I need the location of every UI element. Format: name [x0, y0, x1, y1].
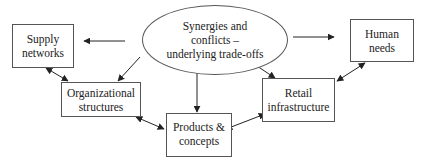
products-line-2: concepts: [179, 134, 219, 148]
arrow-retail-human: [337, 63, 365, 81]
center-line-2: conflicts –: [191, 33, 239, 47]
supply-line-2: networks: [22, 46, 64, 60]
node-supply-networks: Supply networks: [12, 24, 74, 68]
node-retail-infrastructure: Retail infrastructure: [262, 78, 335, 122]
center-line-1: Synergies and: [183, 19, 248, 33]
arrow-supply-org: [46, 68, 68, 81]
node-organizational-structures: Organizational structures: [61, 82, 141, 117]
node-human-needs: Human needs: [350, 19, 414, 62]
arrow-org-products: [136, 117, 164, 129]
retail-line-1: Retail: [285, 86, 312, 100]
center-ellipse-synergies: Synergies and conflicts – underlying tra…: [142, 5, 288, 75]
node-products-concepts: Products & concepts: [166, 113, 232, 157]
products-line-1: Products &: [173, 120, 225, 134]
human-line-1: Human: [365, 27, 399, 41]
org-line-1: Organizational: [67, 86, 135, 100]
center-line-3: underlying trade-offs: [166, 47, 263, 61]
retail-line-2: infrastructure: [268, 100, 330, 114]
human-line-2: needs: [369, 41, 395, 55]
arrow-center-to-org: [118, 57, 140, 81]
supply-line-1: Supply: [27, 32, 60, 46]
org-line-2: structures: [79, 100, 124, 114]
